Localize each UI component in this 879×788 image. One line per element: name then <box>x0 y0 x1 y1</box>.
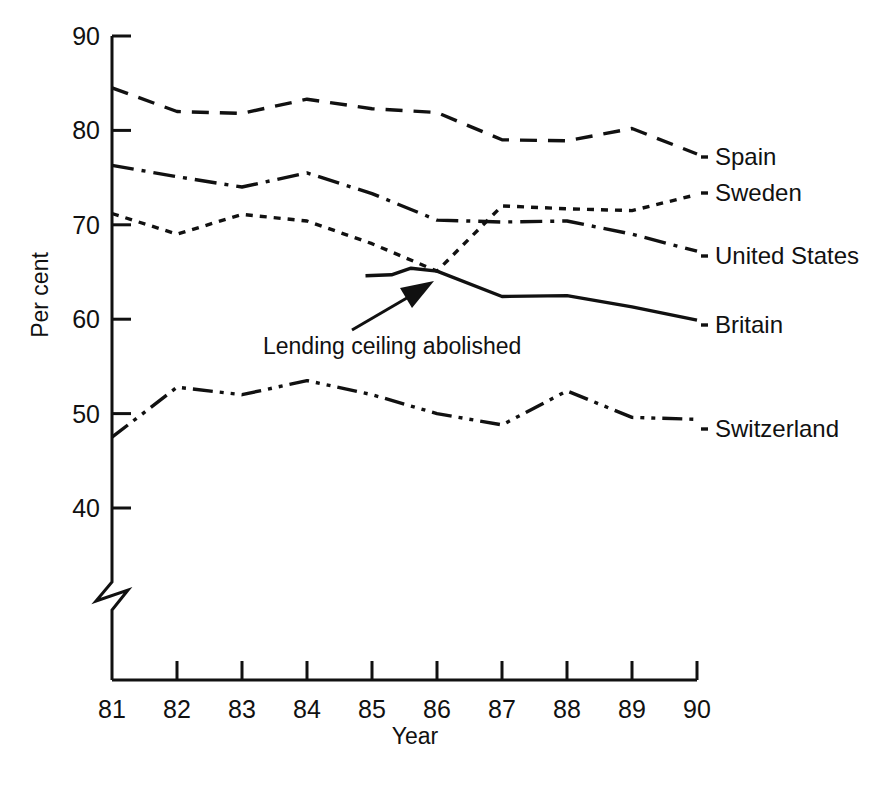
y-axis-title: Per cent <box>27 252 53 338</box>
series-label-britain: Britain <box>715 311 783 338</box>
x-tick-label: 89 <box>618 695 646 723</box>
x-tick-label: 86 <box>423 695 451 723</box>
y-tick-label: 80 <box>72 116 100 144</box>
x-axis-ticks <box>177 661 697 680</box>
x-axis-title: Year <box>392 723 439 749</box>
y-tick-label: 50 <box>72 400 100 428</box>
y-tick-label: 90 <box>72 22 100 50</box>
series-label-group: SpainSwedenUnited StatesBritainSwitzerla… <box>701 143 859 442</box>
x-tick-label: 85 <box>358 695 386 723</box>
series-label-spain: Spain <box>715 143 776 170</box>
series-label-sweden: Sweden <box>715 179 802 206</box>
y-axis-break-zigzag <box>96 570 128 680</box>
x-axis-tick-labels: 81828384858687888990 <box>98 695 711 723</box>
x-tick-label: 88 <box>553 695 581 723</box>
y-axis-tick-labels: 908070605040 <box>72 22 100 522</box>
x-tick-label: 81 <box>98 695 126 723</box>
lending-ceiling-annotation: Lending ceiling abolished <box>263 281 521 359</box>
line-chart-canvas: 908070605040 81828384858687888990 SpainS… <box>0 0 879 788</box>
data-series-group <box>112 88 697 437</box>
x-tick-label: 90 <box>683 695 711 723</box>
x-tick-label: 87 <box>488 695 516 723</box>
y-axis-ticks <box>112 36 131 508</box>
annotation-arrow-head <box>400 281 434 308</box>
chart-figure: 908070605040 81828384858687888990 SpainS… <box>0 0 879 788</box>
y-tick-label: 70 <box>72 211 100 239</box>
series-label-switzerland: Switzerland <box>715 415 839 442</box>
y-tick-label: 40 <box>72 494 100 522</box>
series-line-switzerland <box>112 381 697 438</box>
series-line-spain <box>112 88 697 154</box>
series-label-united-states: United States <box>715 242 859 269</box>
x-tick-label: 82 <box>163 695 191 723</box>
annotation-label: Lending ceiling abolished <box>263 333 521 359</box>
y-tick-label: 60 <box>72 305 100 333</box>
x-tick-label: 83 <box>228 695 256 723</box>
x-tick-label: 84 <box>293 695 321 723</box>
series-line-united-states <box>112 165 697 251</box>
